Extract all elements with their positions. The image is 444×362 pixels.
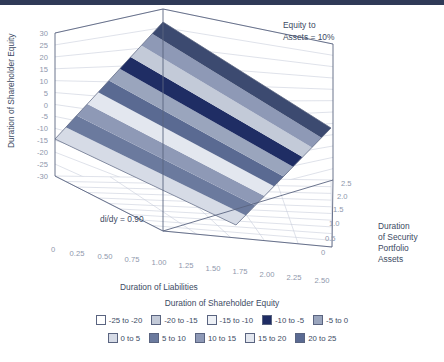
legend-item[interactable]: 10 to 15 — [195, 333, 236, 343]
legend-swatch — [96, 315, 106, 325]
legend-label: 20 to 25 — [308, 334, 336, 343]
z-tick: 0.5 — [325, 234, 336, 243]
legend-item[interactable]: -5 to 0 — [313, 315, 348, 325]
z-tick: 2.5 — [341, 179, 352, 188]
z-tick: 2.0 — [337, 192, 348, 201]
legend-swatch — [262, 315, 272, 325]
chart-canvas: 30 25 20 15 10 5 0 -5 -10 -15 -20 -25 -3… — [0, 0, 444, 362]
legend-item[interactable]: -25 to -20 — [96, 315, 142, 325]
x-tick: 0.25 — [70, 249, 85, 258]
y-tick: 0 — [44, 101, 48, 110]
svg-text:Portfolio: Portfolio — [378, 243, 409, 253]
legend-item[interactable]: 0 to 5 — [108, 333, 141, 343]
x-tick: 2.25 — [287, 273, 302, 282]
y-tick: 10 — [40, 77, 48, 86]
legend-item[interactable]: -10 to -5 — [262, 315, 304, 325]
y-tick: 15 — [40, 65, 48, 74]
z-tick: 1.5 — [333, 205, 344, 214]
legend-item[interactable]: 5 to 10 — [149, 333, 186, 343]
svg-text:Duration: Duration — [378, 221, 410, 231]
legend-swatch — [195, 333, 205, 343]
legend-label: 0 to 5 — [121, 334, 141, 343]
annotation-di-dy: di/dy = 0.90 — [100, 214, 144, 224]
legend-item[interactable]: -20 to -15 — [151, 315, 197, 325]
x-tick: 0 — [51, 245, 55, 254]
legend-label: 15 to 20 — [258, 334, 286, 343]
x-tick: 1.75 — [233, 267, 248, 276]
legend-row-2: 0 to 5 5 to 10 10 to 15 15 to 20 20 to 2… — [0, 333, 444, 343]
y-tick: 20 — [40, 53, 48, 62]
svg-text:of Security: of Security — [378, 232, 418, 242]
annotation-equity-to-assets: Equity to Assets = 10% — [283, 20, 335, 42]
x-tick: 0.50 — [98, 252, 113, 261]
z-tick: 0 — [321, 248, 325, 257]
legend-label: 5 to 10 — [162, 334, 186, 343]
legend-swatch — [245, 333, 255, 343]
legend-swatch — [207, 315, 217, 325]
y-tick: 25 — [40, 41, 48, 50]
y-tick: -30 — [37, 172, 48, 181]
legend-label: -10 to -5 — [275, 316, 304, 325]
legend-swatch — [149, 333, 159, 343]
y-tick: -10 — [37, 124, 48, 133]
annotation-line-2: Assets = 10% — [283, 32, 335, 42]
y-tick: 5 — [44, 89, 48, 98]
x-tick: 2.50 — [315, 276, 330, 285]
x-tick: 0.75 — [125, 255, 140, 264]
annotation-line-1: Equity to — [283, 20, 316, 30]
legend-swatch — [313, 315, 323, 325]
legend-item[interactable]: 20 to 25 — [295, 333, 336, 343]
legend-label: 10 to 15 — [208, 334, 236, 343]
y-tick: 30 — [40, 29, 48, 38]
y-tick: -15 — [37, 136, 48, 145]
x-tick: 1.50 — [206, 264, 221, 273]
legend-swatch — [295, 333, 305, 343]
x-tick: 2.00 — [260, 270, 275, 279]
legend-swatch — [108, 333, 118, 343]
z-axis-title: Duration of Security Portfolio Assets — [378, 221, 418, 264]
legend-label: -5 to 0 — [326, 316, 348, 325]
y-tick: -20 — [37, 148, 48, 157]
legend-swatch — [151, 315, 161, 325]
y-tick: -5 — [41, 112, 48, 121]
surface-chart-3d: 30 25 20 15 10 5 0 -5 -10 -15 -20 -25 -3… — [0, 0, 444, 362]
y-axis-title: Duration of Shareholder Equity — [6, 33, 16, 148]
y-tick: -25 — [37, 160, 48, 169]
legend-label: -20 to -15 — [164, 316, 197, 325]
svg-text:Assets: Assets — [378, 254, 403, 264]
chart-bottom-title: Duration of Shareholder Equity — [165, 298, 280, 308]
x-tick: 1.25 — [179, 261, 194, 270]
z-tick: 1.0 — [329, 219, 340, 228]
legend-label: -15 to -10 — [220, 316, 253, 325]
legend-label: -25 to -20 — [109, 316, 142, 325]
legend-item[interactable]: -15 to -10 — [207, 315, 253, 325]
legend-row-1: -25 to -20 -20 to -15 -15 to -10 -10 to … — [0, 315, 444, 325]
x-tick: 1.00 — [152, 258, 167, 267]
x-axis-ticks: 0 0.25 0.50 0.75 1.00 1.25 1.50 1.75 2.0… — [51, 245, 330, 285]
x-axis-title: Duration of Liabilities — [120, 282, 198, 292]
y-axis-ticks: 30 25 20 15 10 5 0 -5 -10 -15 -20 -25 -3… — [37, 29, 48, 181]
legend-item[interactable]: 15 to 20 — [245, 333, 286, 343]
